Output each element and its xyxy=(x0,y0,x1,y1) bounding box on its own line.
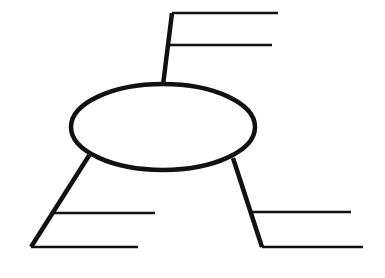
concept-map-diagram: Blank concept map graphic organizer xyxy=(0,0,385,278)
branch-top-connector[interactable] xyxy=(163,13,172,85)
branch-top-group xyxy=(163,13,278,85)
central-idea-ellipse[interactable] xyxy=(71,84,255,170)
branch-lower-right-connector[interactable] xyxy=(233,158,262,247)
branch-lower-left-connector[interactable] xyxy=(31,154,90,247)
organizer-canvas xyxy=(0,0,385,278)
branch-lower-right-group xyxy=(233,158,363,247)
